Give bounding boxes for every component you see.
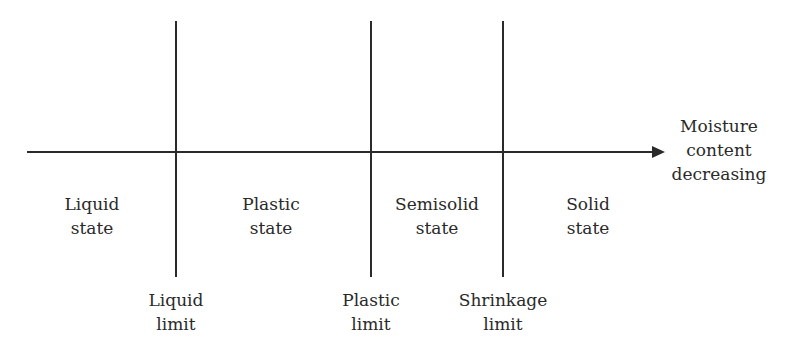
arrowhead-icon (652, 146, 665, 158)
axis-label-line: decreasing (672, 162, 767, 186)
axis-label: Moisture content decreasing (672, 114, 767, 186)
state-label-line: Plastic (242, 192, 300, 216)
limit-label-line: Liquid (149, 288, 204, 312)
plastic-limit-label: Plastic limit (342, 288, 400, 336)
shrinkage-limit-label: Shrinkage limit (459, 288, 548, 336)
state-label-line: state (65, 216, 120, 240)
state-plastic: Plastic state (242, 192, 300, 240)
state-label-line: Semisolid (395, 192, 479, 216)
limit-label-line: limit (149, 312, 204, 336)
state-label-line: state (242, 216, 300, 240)
state-solid: Solid state (566, 192, 610, 240)
liquid-limit-label: Liquid limit (149, 288, 204, 336)
state-semisolid: Semisolid state (395, 192, 479, 240)
axis-label-line: content (672, 138, 767, 162)
limit-label-line: limit (459, 312, 548, 336)
state-label-line: state (395, 216, 479, 240)
state-label-line: Solid (566, 192, 610, 216)
axis-label-line: Moisture (672, 114, 767, 138)
limit-label-line: Shrinkage (459, 288, 548, 312)
state-label-line: state (566, 216, 610, 240)
limit-label-line: Plastic (342, 288, 400, 312)
limit-label-line: limit (342, 312, 400, 336)
state-liquid: Liquid state (65, 192, 120, 240)
state-label-line: Liquid (65, 192, 120, 216)
